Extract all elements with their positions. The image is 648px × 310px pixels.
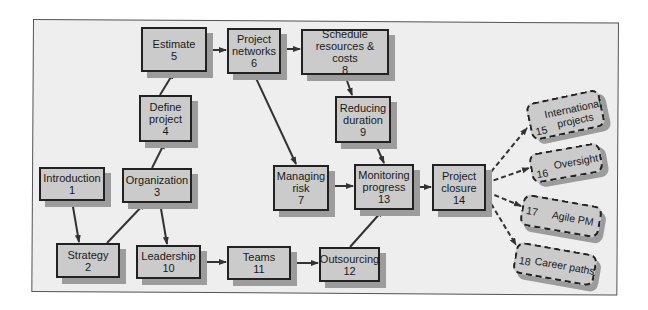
- node-number: 3: [154, 186, 160, 198]
- node-outsourcing: Outsourcing 12: [319, 247, 380, 282]
- node-label: Estimate: [153, 38, 196, 50]
- node-label: Monitoring progress: [358, 169, 409, 193]
- node-number: 4: [162, 125, 168, 137]
- arrow-12-to-13: [350, 210, 383, 247]
- node-label: Oversight: [549, 151, 602, 172]
- node-number: 16: [535, 166, 549, 180]
- arrow-8-to-9: [345, 75, 352, 95]
- arrow-6-to-7: [254, 74, 296, 164]
- node-number: 7: [298, 194, 304, 206]
- arrow-14-to-15: [486, 128, 527, 178]
- node-label: Project networks: [232, 33, 276, 57]
- node-number: 18: [518, 254, 532, 268]
- node-label: Project closure: [441, 170, 476, 194]
- node-label: Organization: [126, 174, 188, 186]
- node-label: Career paths: [531, 254, 598, 277]
- arrow-9-to-13: [375, 143, 384, 163]
- node-organization: Organization 3: [122, 168, 192, 203]
- node-label: Introduction: [43, 172, 100, 184]
- node-define-project: Define project 4: [139, 95, 192, 142]
- node-leadership: Leadership 10: [136, 245, 201, 279]
- node-number: 12: [343, 265, 355, 277]
- arrow-4-to-5: [160, 72, 174, 95]
- node-label: Define project: [149, 101, 182, 125]
- arrow-14-to-18: [487, 197, 516, 245]
- node-monitoring-progress: Monitoring progress 13: [354, 164, 414, 210]
- node-number: 15: [535, 123, 549, 137]
- node-reducing-duration: Reducing duration 9: [335, 96, 391, 143]
- node-number: 17: [525, 204, 539, 218]
- node-label: Outsourcing: [320, 253, 379, 265]
- arrow-3-to-4: [152, 142, 165, 168]
- node-number: 5: [171, 50, 177, 62]
- node-project-networks: Project networks 6: [227, 28, 281, 74]
- node-number: 13: [378, 193, 390, 205]
- node-project-closure: Project closure 14: [432, 164, 486, 211]
- node-number: 6: [251, 57, 257, 69]
- node-label: Leadership: [141, 250, 195, 262]
- node-number: 1: [69, 184, 75, 196]
- node-label: International projects: [542, 96, 606, 132]
- node-label: Teams: [243, 251, 275, 263]
- node-schedule-resources-costs: Schedule resources & costs 8: [301, 29, 389, 75]
- node-number: 8: [342, 64, 348, 76]
- node-label: Agile PM: [546, 208, 599, 229]
- arrow-3-to-10: [160, 203, 167, 244]
- node-label: Reducing duration: [340, 102, 386, 126]
- node-label: Strategy: [68, 249, 109, 261]
- arrow-2-to-3: [107, 203, 145, 243]
- node-label: Managing risk: [277, 170, 325, 194]
- node-number: 14: [453, 194, 465, 206]
- node-number: 10: [162, 262, 174, 274]
- arrow-1-to-2: [72, 201, 79, 242]
- node-number: 9: [360, 126, 366, 138]
- node-label: Schedule resources & costs: [303, 28, 387, 64]
- node-number: 2: [85, 261, 91, 273]
- node-estimate: Estimate 5: [141, 27, 207, 72]
- node-introduction: Introduction 1: [39, 167, 105, 201]
- node-strategy: Strategy 2: [56, 243, 120, 278]
- node-managing-risk: Managing risk 7: [273, 165, 329, 211]
- node-teams: Teams 11: [227, 246, 291, 280]
- node-number: 11: [253, 263, 264, 275]
